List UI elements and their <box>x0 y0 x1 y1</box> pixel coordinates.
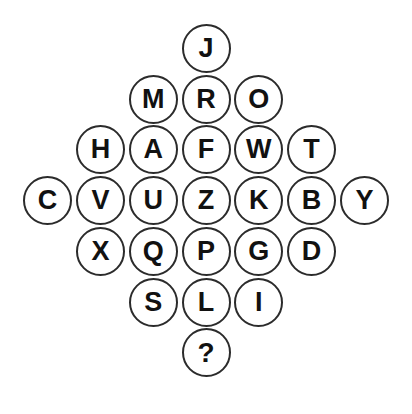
letter-glyph: X <box>91 238 109 265</box>
letter-glyph: B <box>302 187 322 214</box>
letter-glyph: Q <box>143 238 164 265</box>
letter-glyph: R <box>196 86 216 113</box>
letter-glyph: V <box>91 187 109 214</box>
letter-circle[interactable]: Q <box>129 227 178 276</box>
letter-glyph: D <box>302 238 322 265</box>
letter-glyph: M <box>142 86 165 113</box>
letter-circle[interactable]: W <box>234 125 283 174</box>
letter-circle[interactable]: U <box>129 176 178 225</box>
letter-circle[interactable]: C <box>23 176 72 225</box>
letter-glyph: K <box>249 187 269 214</box>
question-mark-glyph: ? <box>197 339 214 367</box>
letter-circle[interactable]: P <box>182 227 231 276</box>
puzzle-row-7: ? <box>0 328 412 377</box>
letter-circle[interactable]: Z <box>182 176 231 225</box>
puzzle-row-5: X Q P G D <box>0 227 412 276</box>
letter-circle[interactable]: M <box>129 75 178 124</box>
letter-circle[interactable]: G <box>234 227 283 276</box>
puzzle-row-6: S L I <box>0 278 412 327</box>
letter-glyph: S <box>144 289 162 316</box>
letter-glyph: P <box>197 238 215 265</box>
letter-circle[interactable]: O <box>234 75 283 124</box>
letter-glyph: L <box>198 289 215 316</box>
puzzle-row-1: J <box>0 24 412 73</box>
letter-glyph: F <box>198 136 215 163</box>
puzzle-row-3: H A F W T <box>0 125 412 174</box>
letter-glyph: I <box>255 289 263 316</box>
letter-circle[interactable]: R <box>182 75 231 124</box>
letter-circle[interactable]: F <box>182 125 231 174</box>
puzzle-row-4: C V U Z K B Y <box>0 176 412 225</box>
letter-circle[interactable]: V <box>76 176 125 225</box>
letter-glyph: Z <box>198 187 215 214</box>
letter-circle[interactable]: B <box>287 176 336 225</box>
letter-circle[interactable]: K <box>234 176 283 225</box>
letter-glyph: T <box>303 136 320 163</box>
letter-circle[interactable]: A <box>129 125 178 174</box>
puzzle-row-2: M R O <box>0 75 412 124</box>
letter-glyph: U <box>143 187 163 214</box>
letter-glyph: W <box>246 136 271 163</box>
letter-glyph: O <box>248 86 269 113</box>
letter-circle[interactable]: T <box>287 125 336 174</box>
unknown-letter-circle[interactable]: ? <box>182 328 231 377</box>
letter-glyph: J <box>198 35 213 62</box>
letter-circle[interactable]: X <box>76 227 125 276</box>
letter-glyph: C <box>38 187 58 214</box>
letter-circle[interactable]: L <box>182 278 231 327</box>
letter-glyph: A <box>143 136 163 163</box>
letter-glyph: H <box>91 136 111 163</box>
letter-circle[interactable]: Y <box>340 176 389 225</box>
letter-circle[interactable]: I <box>234 278 283 327</box>
letter-circle[interactable]: D <box>287 227 336 276</box>
letter-diamond-puzzle: J M R O H A F W T C <box>0 0 412 414</box>
letter-glyph: G <box>248 238 269 265</box>
letter-glyph: Y <box>355 187 373 214</box>
letter-circle[interactable]: J <box>182 24 231 73</box>
letter-circle[interactable]: H <box>76 125 125 174</box>
letter-circle[interactable]: S <box>129 278 178 327</box>
